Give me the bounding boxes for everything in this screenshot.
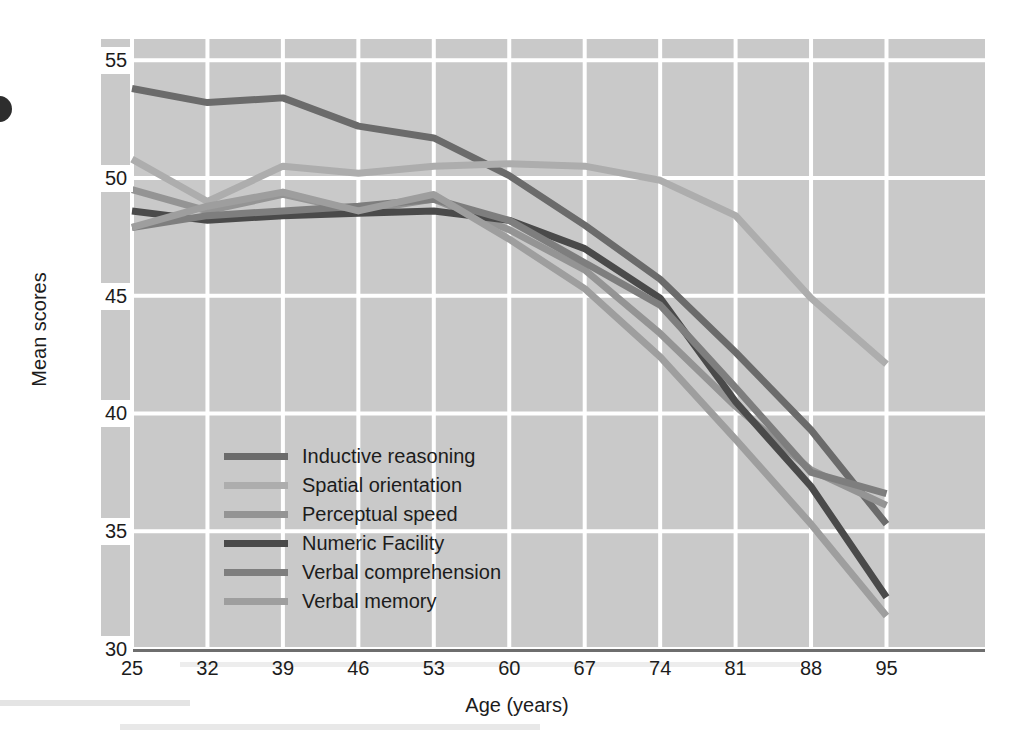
x-tick-label: 74 [633,657,687,679]
legend-swatch-5 [224,569,288,576]
legend-item: Perceptual speed [224,501,501,527]
legend-swatch-3 [224,511,288,518]
line-chart-figure: 555045403530 2532394653606774818895 Age … [0,0,1034,742]
y-tick-label: 45 [101,283,133,310]
legend-item: Inductive reasoning [224,443,501,469]
legend-swatch-6 [224,598,288,605]
legend-label: Verbal memory [302,590,437,612]
y-tick-label: 35 [101,518,133,545]
legend-label: Perceptual speed [302,503,458,525]
legend-label: Numeric Facility [302,532,444,554]
x-tick-label: 95 [860,657,914,679]
chart-legend: Inductive reasoningSpatial orientationPe… [224,443,501,614]
x-tick-label: 88 [784,657,838,679]
legend-label: Spatial orientation [302,474,462,496]
y-axis-title: Mean scores [28,260,51,400]
legend-label: Verbal comprehension [302,561,501,583]
x-tick-label: 39 [256,657,310,679]
legend-item: Spatial orientation [224,472,501,498]
page-scan-artifact [0,96,12,122]
x-tick-label: 25 [105,657,159,679]
legend-swatch-1 [224,453,288,460]
x-tick-label: 60 [482,657,536,679]
x-tick-label: 81 [709,657,763,679]
legend-item: Verbal memory [224,588,501,614]
y-tick-label: 50 [101,165,133,192]
legend-swatch-2 [224,482,288,489]
y-tick-label: 40 [101,400,133,427]
x-tick-label: 32 [180,657,234,679]
legend-swatch-4 [224,540,288,547]
y-tick-label: 55 [101,47,133,74]
legend-item: Verbal comprehension [224,559,501,585]
legend-item: Numeric Facility [224,530,501,556]
x-tick-label: 46 [331,657,385,679]
legend-label: Inductive reasoning [302,445,475,467]
x-axis-title: Age (years) [0,694,1034,717]
x-tick-label: 67 [558,657,612,679]
page-scan-smudge-bottom [120,724,540,730]
x-tick-label: 53 [407,657,461,679]
x-axis-rule [101,649,985,652]
